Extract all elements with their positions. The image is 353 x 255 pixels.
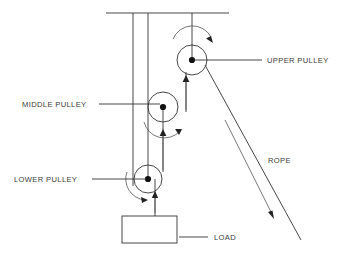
upper-pulley-label: UPPER PULLEY	[267, 56, 329, 65]
lower-pulley-rotation-arrowhead	[141, 197, 148, 203]
force-arrow-upper	[183, 75, 190, 110]
middle-pulley-hub	[160, 104, 166, 110]
load-block-box	[122, 216, 177, 243]
load-label: LOAD	[214, 233, 236, 242]
rope-free-end-line	[205, 65, 301, 240]
force-arrow-middle	[160, 129, 167, 170]
force-arrow-load	[152, 191, 158, 213]
upper-pulley-group	[173, 26, 213, 75]
middle-pulley-label: MIDDLE PULLEY	[22, 100, 86, 109]
pulley-diagram-canvas: UPPER PULLEY MIDDLE PULLEY LOWER PULLEY …	[0, 0, 353, 255]
upper-pulley-rotation-arrowhead	[206, 36, 213, 43]
lower-pulley-label: LOWER PULLEY	[14, 175, 77, 184]
rope-label: ROPE	[268, 156, 291, 165]
pulley-system-diagram: UPPER PULLEY MIDDLE PULLEY LOWER PULLEY …	[0, 0, 353, 255]
rope-pull-direction-arrow	[225, 120, 274, 219]
